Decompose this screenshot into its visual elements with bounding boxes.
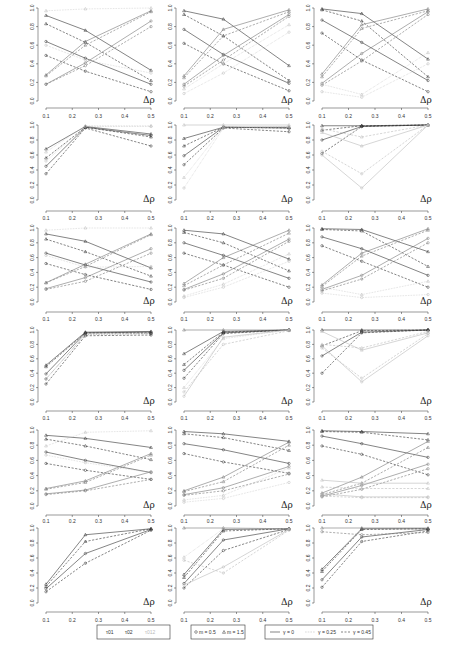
x-axis-label: Δρ <box>143 95 155 105</box>
y-tick-label: 0.4 <box>29 269 35 276</box>
circle-marker-icon <box>222 72 224 74</box>
y-tick-label: 1.0 <box>305 224 311 231</box>
y-tick-label: 0.4 <box>167 472 173 479</box>
y-tick-label: 0.4 <box>305 269 311 276</box>
panel-r0-c2: 0.00.20.40.60.81.00.10.20.30.40.5Δρ <box>305 4 432 119</box>
panel-r5-c1: 0.00.20.40.60.81.00.10.20.30.40.5Δρ <box>167 524 293 623</box>
y-tick-label: 0.2 <box>305 487 311 494</box>
y-tick-label: 0.6 <box>29 42 35 49</box>
y-tick-label: 0.0 <box>305 298 311 305</box>
triangle-marker-icon <box>288 252 291 255</box>
y-tick-label: 0.0 <box>29 97 35 104</box>
y-tick-label: 0.2 <box>29 584 35 591</box>
x-axis-label: Δρ <box>143 296 155 306</box>
y-tick-label: 0.8 <box>29 341 35 348</box>
triangle-marker-icon <box>288 232 291 235</box>
y-tick-label: 1.0 <box>167 121 173 128</box>
y-tick-label: 0.0 <box>29 196 35 203</box>
x-tick-label: 0.2 <box>207 415 214 421</box>
x-tick-label: 0.1 <box>319 518 326 524</box>
y-tick-label: 0.0 <box>305 196 311 203</box>
x-tick-label: 0.2 <box>69 518 76 524</box>
y-tick-label: 0.8 <box>305 136 311 143</box>
y-tick-label: 1.0 <box>305 4 311 11</box>
x-tick-label: 0.5 <box>148 316 155 322</box>
circle-marker-icon <box>288 481 290 483</box>
legend-tau01: τ01 <box>106 629 114 635</box>
panel-r5-c2: 0.00.20.40.60.81.00.10.20.30.40.5Δρ <box>305 524 432 623</box>
y-tick-label: 1.0 <box>305 326 311 333</box>
panel-r4-c0: 0.00.20.40.60.81.00.10.20.30.40.5Δρ <box>29 426 155 524</box>
y-tick-label: 1.0 <box>167 4 173 11</box>
panel-r5-c0: 0.00.20.40.60.81.00.10.20.30.40.5Δρ <box>29 524 155 623</box>
triangle-marker-icon <box>84 444 87 447</box>
x-tick-label: 0.5 <box>425 215 432 221</box>
x-tick-label: 0.2 <box>345 316 352 322</box>
y-tick-label: 0.2 <box>305 584 311 591</box>
y-tick-label: 1.0 <box>29 224 35 231</box>
x-tick-label: 0.1 <box>43 415 50 421</box>
x-tick-label: 0.3 <box>95 215 102 221</box>
x-tick-label: 0.5 <box>425 316 432 322</box>
y-tick-label: 0.2 <box>305 181 311 188</box>
y-tick-label: 0.4 <box>29 370 35 377</box>
y-tick-label: 0.6 <box>305 457 311 464</box>
y-tick-label: 0.6 <box>305 42 311 49</box>
circle-marker-icon <box>427 286 429 288</box>
y-tick-label: 0.2 <box>305 284 311 291</box>
x-tick-label: 0.1 <box>181 113 188 119</box>
y-tick-label: 0.4 <box>167 370 173 377</box>
y-tick-label: 0.8 <box>29 539 35 546</box>
x-tick-label: 0.5 <box>148 518 155 524</box>
legend-tau02: τ02 <box>125 629 133 635</box>
x-tick-label: 0.2 <box>69 617 76 623</box>
x-tick-label: 0.1 <box>319 113 326 119</box>
x-tick-label: 0.4 <box>259 617 266 623</box>
triangle-marker-icon <box>288 449 291 452</box>
x-tick-label: 0.5 <box>286 316 293 322</box>
x-tick-label: 0.3 <box>233 518 240 524</box>
x-tick-label: 0.1 <box>43 518 50 524</box>
legend-m: m = 0.5 m = 1.5 <box>191 625 245 639</box>
x-tick-label: 0.3 <box>233 113 240 119</box>
y-tick-label: 0.0 <box>167 298 173 305</box>
panel-r1-c0: 0.00.20.40.60.81.00.10.20.30.40.5Δρ <box>29 121 155 221</box>
x-tick-label: 0.5 <box>425 113 432 119</box>
y-tick-label: 0.0 <box>305 599 311 606</box>
y-tick-label: 0.6 <box>305 254 311 261</box>
x-tick-label: 0.2 <box>207 316 214 322</box>
triangle-marker-icon <box>427 487 430 490</box>
circle-marker-icon <box>150 25 152 27</box>
circle-marker-icon <box>222 343 224 345</box>
circle-marker-icon <box>288 286 290 288</box>
y-tick-label: 0.2 <box>29 181 35 188</box>
triangle-marker-icon <box>150 458 153 461</box>
x-tick-label: 0.4 <box>398 415 405 421</box>
x-tick-label: 0.4 <box>121 415 128 421</box>
legend-tau: τ01 τ02 τ012 <box>97 625 170 639</box>
x-axis-label: Δρ <box>420 296 432 306</box>
y-tick-label: 0.4 <box>29 569 35 576</box>
y-tick-label: 0.4 <box>305 472 311 479</box>
legend-gamma045: γ = 0.45 <box>353 629 371 635</box>
y-tick-label: 1.0 <box>167 224 173 231</box>
circle-marker-icon <box>288 90 290 92</box>
x-axis-label: Δρ <box>420 500 432 510</box>
triangle-marker-icon <box>183 13 186 16</box>
circle-marker-icon <box>222 286 224 288</box>
x-tick-label: 0.3 <box>95 316 102 322</box>
panel-r3-c0: 0.00.20.40.60.81.00.10.20.30.40.5Δρ <box>29 326 155 421</box>
panel-r3-c2: 0.00.20.40.60.81.00.10.20.30.40.5Δρ <box>305 326 432 421</box>
triangle-marker-icon <box>45 14 48 17</box>
x-tick-label: 0.2 <box>69 113 76 119</box>
x-tick-label: 0.1 <box>43 215 50 221</box>
x-tick-label: 0.5 <box>286 518 293 524</box>
circle-marker-icon <box>222 59 224 61</box>
x-tick-label: 0.4 <box>121 113 128 119</box>
x-tick-label: 0.4 <box>121 316 128 322</box>
circle-marker-icon <box>288 260 290 262</box>
x-tick-label: 0.4 <box>398 113 405 119</box>
legend-tau012: τ012 <box>145 629 156 635</box>
x-axis-label: Δρ <box>281 194 293 204</box>
y-tick-label: 0.2 <box>305 384 311 391</box>
